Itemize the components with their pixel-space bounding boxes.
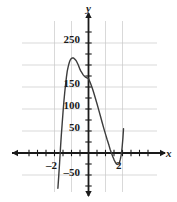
y-tick-label-250: 250 (56, 34, 80, 45)
x-tick-label-neg2: –2 (46, 160, 57, 171)
graph-figure: 250 150 100 50 –50 –2 2 y x (0, 0, 177, 202)
x-axis-label: x (166, 148, 172, 159)
coordinate-plane (0, 0, 177, 202)
y-tick-label-50: 50 (56, 122, 80, 133)
x-tick-label-2: 2 (116, 160, 122, 171)
y-axis-label: y (86, 3, 91, 14)
y-tick-label-150: 150 (56, 78, 80, 89)
gridlines (22, 21, 157, 192)
axis-lines (12, 12, 166, 197)
y-tick-label-100: 100 (56, 100, 80, 111)
